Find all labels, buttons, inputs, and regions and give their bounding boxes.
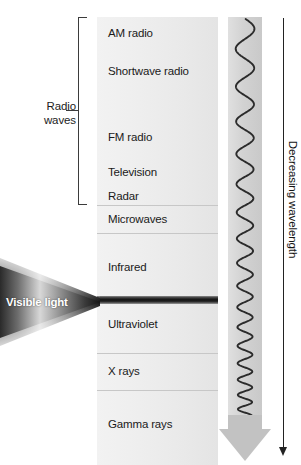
decreasing-wavelength-axis: Decreasing wavelength [274, 18, 294, 458]
bracket-bottom-tick [78, 204, 87, 205]
spectrum-band: Microwaves [97, 205, 218, 233]
spectrum-band: Radar [97, 187, 218, 205]
spectrum-band-label: AM radio [108, 27, 153, 40]
spectrum-band-label: Shortwave radio [108, 65, 189, 78]
electromagnetic-spectrum-diagram: Radio waves AM radioShortwave radioFM ra… [0, 0, 301, 465]
visible-light-cone: Visible light [0, 256, 102, 348]
wave-arrowhead [217, 415, 273, 463]
spectrum-band-label: FM radio [108, 131, 152, 144]
spectrum-band: Gamma rays [97, 390, 218, 465]
spectrum-band: Shortwave radio [97, 55, 218, 121]
radio-waves-group-label: Radio waves [6, 99, 76, 127]
radio-waves-bracket [78, 17, 88, 205]
radio-waves-label-line2: waves [6, 113, 76, 127]
bracket-vertical-line [78, 17, 79, 205]
gray-arrow-head-shape [217, 415, 273, 463]
spectrum-band-column: AM radioShortwave radioFM radioTelevisio… [97, 17, 218, 465]
spectrum-band-label: Infrared [108, 261, 146, 274]
wavelength-wave-column [222, 17, 268, 465]
axis-label: Decreasing wavelength [286, 130, 299, 270]
spectrum-band: Television [97, 159, 218, 187]
spectrum-band: Infrared [97, 233, 218, 296]
spectrum-band-label: Television [108, 166, 157, 179]
spectrum-band-label: Ultraviolet [108, 318, 157, 331]
spectrum-band: FM radio [97, 121, 218, 159]
spectrum-band: AM radio [97, 17, 218, 55]
bracket-top-tick [78, 17, 87, 18]
spectrum-band-label: Radar [108, 190, 139, 203]
spectrum-band-label: X rays [108, 365, 140, 378]
radio-waves-label-line1: Radio [6, 99, 76, 113]
axis-arrowhead-icon [279, 447, 287, 456]
spectrum-band-label: Microwaves [108, 213, 167, 226]
spectrum-band: Ultraviolet [97, 304, 218, 353]
spectrum-band-label: Gamma rays [108, 418, 172, 431]
sine-wave-graphic [222, 17, 268, 465]
visible-light-strip [97, 296, 218, 304]
axis-line [283, 18, 284, 450]
visible-light-label: Visible light [6, 296, 92, 308]
spectrum-band: X rays [97, 353, 218, 390]
